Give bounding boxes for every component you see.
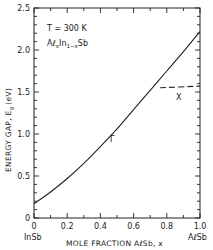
chart: 00.51.01.52.02.5 00.20.40.60.81.0 Γ X T … — [0, 0, 213, 250]
x-tick-label: 0.6 — [127, 222, 140, 231]
y-tick-label: 1.5 — [17, 88, 30, 97]
alloy-al: Aℓ — [47, 39, 56, 48]
x-tick-label: 0 — [31, 222, 36, 231]
x-tick-label: 0.8 — [160, 222, 173, 231]
alloy-sub-1mx: 1−x — [66, 43, 78, 49]
y-axis-title-unit: (eV) — [4, 88, 13, 105]
x-tick-labels: 00.20.40.60.81.0 — [31, 222, 206, 231]
y-tick-label: 0.5 — [17, 172, 30, 181]
x-tick-label: 0.4 — [94, 222, 107, 231]
x-valley-label: X — [176, 93, 182, 102]
y-axis-title: ENERGY GAP, Eg(eV) — [4, 88, 15, 172]
y-tick-label: 1.0 — [17, 130, 30, 139]
x-right-end-label: AℓSb — [188, 233, 207, 242]
x-left-end-label: InSb — [24, 233, 42, 242]
x-tick-label: 0.2 — [61, 222, 74, 231]
alloy-sb: Sb — [78, 39, 88, 48]
alloy-formula: AℓxIn1−xSb — [47, 39, 88, 49]
y-tick-labels: 00.51.01.52.02.5 — [17, 4, 30, 223]
alloy-in: In — [59, 39, 66, 48]
y-axis-title-sub: g — [8, 107, 15, 111]
temperature-label: T = 300 K — [46, 24, 87, 33]
x-axis-title: MOLE FRACTION AℓSb, x — [66, 239, 163, 248]
gamma-curve — [34, 32, 200, 204]
y-tick-label: 2.5 — [17, 4, 30, 13]
y-tick-label: 0 — [25, 214, 30, 223]
y-axis-title-main: ENERGY GAP, E — [4, 110, 13, 172]
x-valley-curve — [160, 86, 200, 88]
x-tick-label: 1.0 — [194, 222, 207, 231]
gamma-label: Γ — [110, 135, 115, 144]
y-tick-label: 2.0 — [17, 46, 30, 55]
